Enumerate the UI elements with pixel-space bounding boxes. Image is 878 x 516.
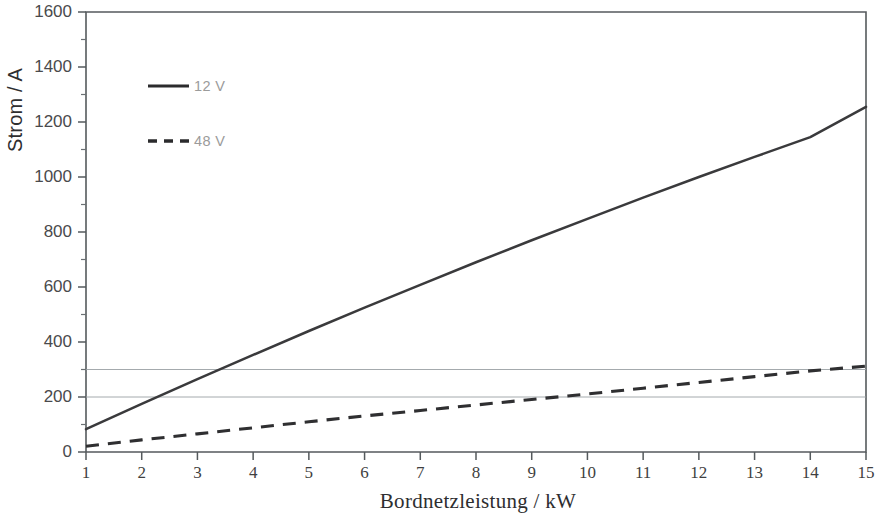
- x-tick-label: 11: [635, 463, 651, 482]
- series-line-12v: [86, 107, 866, 429]
- x-tick-label: 15: [858, 463, 875, 482]
- x-axis-title: Bordnetzleistung / kW: [380, 489, 576, 513]
- x-tick-label: 5: [305, 463, 314, 482]
- y-tick-label: 1600: [34, 2, 72, 21]
- data-series-group: [86, 107, 866, 446]
- y-tick-label: 200: [44, 387, 72, 406]
- y-tick-label: 1400: [34, 57, 72, 76]
- y-tick-label: 1200: [34, 112, 72, 131]
- legend: 12 V 48 V: [148, 78, 225, 149]
- x-tick-label: 10: [579, 463, 596, 482]
- legend-label-48v: 48 V: [194, 133, 225, 149]
- y-tick-label: 1000: [34, 167, 72, 186]
- x-tick-label: 13: [746, 463, 763, 482]
- x-tick-label: 6: [360, 463, 369, 482]
- x-tick-label: 12: [690, 463, 707, 482]
- y-tick-label: 400: [44, 332, 72, 351]
- y-axis-tick-labels: 02004006008001000120014001600: [34, 2, 72, 461]
- x-axis-tick-labels: 123456789101112131415: [82, 463, 875, 482]
- y-tick-label: 800: [44, 222, 72, 241]
- y-tick-label: 600: [44, 277, 72, 296]
- x-tick-label: 4: [249, 463, 258, 482]
- x-tick-label: 8: [472, 463, 481, 482]
- legend-label-12v: 12 V: [194, 78, 225, 94]
- y-axis-major-ticks: [78, 12, 86, 452]
- x-tick-label: 3: [193, 463, 202, 482]
- chart-canvas: 02004006008001000120014001600 1234567891…: [0, 0, 878, 516]
- x-axis-ticks: [86, 452, 866, 460]
- chart-figure: 02004006008001000120014001600 1234567891…: [0, 0, 878, 516]
- x-tick-label: 14: [802, 463, 820, 482]
- x-tick-label: 9: [527, 463, 536, 482]
- y-axis-title: Strom / A: [4, 68, 26, 153]
- x-tick-label: 7: [416, 463, 425, 482]
- series-line-48v: [86, 366, 866, 446]
- x-tick-label: 2: [137, 463, 146, 482]
- y-tick-label: 0: [63, 442, 72, 461]
- x-tick-label: 1: [82, 463, 91, 482]
- reference-lines: [86, 370, 866, 398]
